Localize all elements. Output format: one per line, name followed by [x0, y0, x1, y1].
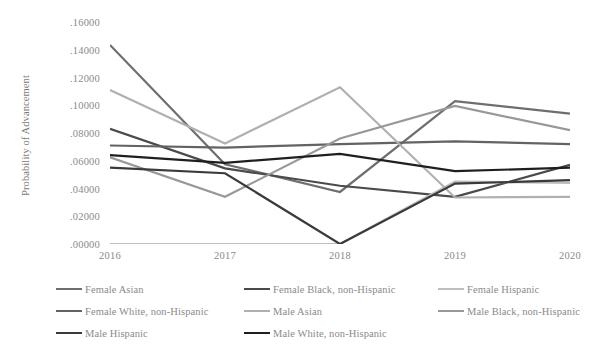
line-chart-figure: Probability of Advancement .00000.02000.…: [0, 0, 599, 360]
legend-row: Female AsianFemale Black, non-HispanicFe…: [28, 278, 588, 300]
y-axis-tick-label: .00000: [70, 239, 100, 250]
legend-item-label: Female Black, non-Hispanic: [273, 284, 395, 295]
y-axis-tick-labels: .00000.02000.04000.06000.08000.10000.120…: [38, 0, 106, 270]
legend-item-label: Female White, non-Hispanic: [85, 306, 208, 317]
plot-lines-svg: [110, 22, 570, 244]
legend-color-swatch: [438, 310, 464, 313]
legend-color-swatch: [244, 288, 270, 291]
legend-item[interactable]: Male Asian: [244, 300, 322, 322]
x-axis-tick-label: 2016: [99, 250, 121, 261]
legend-item[interactable]: Male Hispanic: [56, 322, 148, 344]
y-axis-title-label: Probability of Advancement: [20, 75, 31, 196]
y-axis-tick-label: .04000: [70, 183, 100, 194]
x-axis-tick-label: 2020: [559, 250, 581, 261]
legend-color-swatch: [56, 332, 82, 335]
series-line: [110, 154, 570, 171]
legend-item-label: Male White, non-Hispanic: [273, 328, 387, 339]
legend-item[interactable]: Female Hispanic: [438, 278, 539, 300]
series-line: [110, 141, 570, 147]
legend-item[interactable]: Female Asian: [56, 278, 144, 300]
legend-item-label: Female Asian: [85, 284, 144, 295]
legend-item[interactable]: Female White, non-Hispanic: [56, 300, 208, 322]
legend-color-swatch: [244, 310, 270, 313]
y-axis-tick-label: .06000: [70, 155, 100, 166]
legend-color-swatch: [438, 288, 464, 291]
y-axis-tick-label: .08000: [70, 128, 100, 139]
x-axis-tick-label: 2019: [444, 250, 466, 261]
chart-legend: Female AsianFemale Black, non-HispanicFe…: [28, 278, 588, 354]
x-axis-tick-label: 2017: [214, 250, 236, 261]
y-axis-tick-label: .14000: [70, 44, 100, 55]
legend-item-label: Male Hispanic: [85, 328, 148, 339]
legend-item-label: Male Black, non-Hispanic: [467, 306, 580, 317]
legend-item-label: Male Asian: [273, 306, 322, 317]
x-axis-tick-label: 2018: [329, 250, 351, 261]
legend-color-swatch: [56, 310, 82, 313]
legend-color-swatch: [244, 332, 270, 335]
series-line: [110, 168, 570, 244]
plot-area: [110, 22, 570, 244]
legend-row: Male HispanicMale White, non-Hispanic: [28, 322, 588, 344]
y-axis-tick-label: .16000: [70, 17, 100, 28]
legend-item[interactable]: Male White, non-Hispanic: [244, 322, 387, 344]
legend-item[interactable]: Male Black, non-Hispanic: [438, 300, 580, 322]
legend-color-swatch: [56, 288, 82, 291]
legend-row: Female White, non-HispanicMale AsianMale…: [28, 300, 588, 322]
y-axis-tick-label: .12000: [70, 72, 100, 83]
y-axis-tick-label: .10000: [70, 100, 100, 111]
y-axis-title: Probability of Advancement: [10, 0, 40, 270]
legend-item[interactable]: Female Black, non-Hispanic: [244, 278, 395, 300]
x-axis-tick-labels: 20162017201820192020: [0, 250, 599, 272]
y-axis-tick-label: .02000: [70, 211, 100, 222]
legend-item-label: Female Hispanic: [467, 284, 539, 295]
